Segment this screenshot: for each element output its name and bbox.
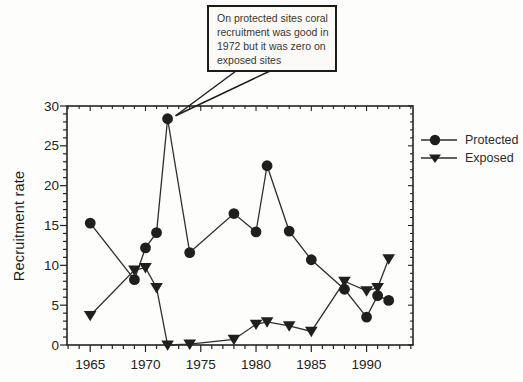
y-tick-label: 10 xyxy=(44,258,59,273)
data-point-exposed xyxy=(250,320,263,330)
data-point-protected xyxy=(361,312,372,323)
data-point-protected xyxy=(284,226,295,237)
plot-frame xyxy=(67,106,413,345)
data-point-exposed xyxy=(150,283,163,293)
annotation-text-line: 1972 but it was zero on xyxy=(217,40,329,54)
y-tick-label: 20 xyxy=(44,178,59,193)
data-point-protected xyxy=(306,254,317,265)
x-tick-label: 1970 xyxy=(130,357,160,372)
x-tick-label: 1980 xyxy=(241,357,271,372)
data-point-protected xyxy=(184,247,195,258)
y-tick-label: 30 xyxy=(44,99,59,114)
legend-item-exposed: Exposed xyxy=(420,149,519,167)
exposed-triangle-marker-icon xyxy=(420,151,458,165)
x-tick-label: 1975 xyxy=(186,357,216,372)
data-point-exposed xyxy=(305,327,318,337)
data-point-exposed xyxy=(382,254,395,264)
y-tick-label: 5 xyxy=(51,298,59,313)
protected-circle-marker-icon xyxy=(420,133,458,147)
y-axis-title: Recruitment rate xyxy=(11,171,27,281)
data-point-protected xyxy=(140,242,151,253)
figure: 196519701975198019851990051015202530 Rec… xyxy=(0,0,523,382)
annotation-box: On protected sites coral recruitment was… xyxy=(207,5,337,72)
callout-leader-line xyxy=(176,71,236,116)
data-point-protected xyxy=(251,226,262,237)
x-tick-label: 1985 xyxy=(296,357,326,372)
data-point-protected xyxy=(262,160,273,171)
data-point-protected xyxy=(85,218,96,229)
x-tick-label: 1965 xyxy=(75,357,105,372)
y-tick-label: 25 xyxy=(44,138,59,153)
data-point-exposed xyxy=(360,286,373,296)
y-tick-label: 0 xyxy=(51,338,59,353)
data-point-protected xyxy=(151,227,162,238)
annotation-text-line: On protected sites coral xyxy=(217,12,329,26)
data-point-protected xyxy=(383,295,394,306)
annotation-text-line: recruitment was good in xyxy=(217,26,329,40)
legend-item-protected: Protected xyxy=(420,131,519,149)
annotation-text-line: exposed sites xyxy=(217,54,329,68)
legend-label-protected: Protected xyxy=(465,133,519,147)
data-point-protected xyxy=(162,113,173,124)
x-tick-label: 1990 xyxy=(352,357,382,372)
legend: Protected Exposed xyxy=(420,131,519,167)
data-point-protected xyxy=(229,208,240,219)
y-tick-label: 15 xyxy=(44,218,59,233)
data-point-exposed xyxy=(84,311,97,321)
legend-label-exposed: Exposed xyxy=(465,151,514,165)
